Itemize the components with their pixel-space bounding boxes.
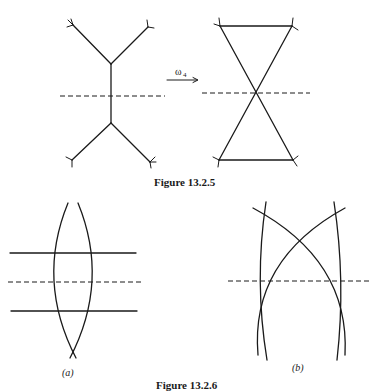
lens-arc-left (54, 203, 76, 358)
edge-top-left (73, 25, 111, 64)
diagram-canvas: ω 4 Figure 13.2.5 (a) (b) Figure 13. (0, 0, 385, 392)
edge-bottom-left (72, 123, 111, 160)
panel-b: (b) (228, 202, 372, 374)
edge-bottom-right (111, 123, 150, 162)
omega-subscript: 4 (183, 71, 187, 79)
omega4-arrow: ω 4 (167, 66, 198, 83)
omega-symbol: ω (175, 66, 182, 77)
arc-crossing-1 (253, 208, 345, 355)
lens-arc-right (70, 203, 92, 358)
caption-figure-13-2-5: Figure 13.2.5 (154, 176, 216, 188)
panel-a: (a) (8, 203, 142, 379)
edge-top-right (111, 27, 148, 64)
tree-graph-left (60, 19, 165, 168)
panel-b-label: (b) (292, 362, 304, 374)
caption-figure-13-2-6: Figure 13.2.6 (156, 379, 218, 391)
hourglass-graph-right (202, 18, 310, 167)
panel-a-label: (a) (62, 367, 74, 379)
